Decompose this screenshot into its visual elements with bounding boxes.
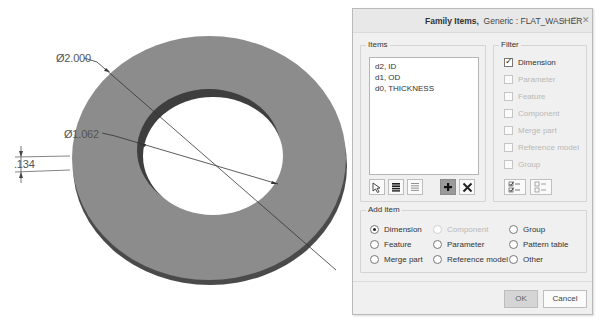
- uncheck-all-filters-button[interactable]: [530, 179, 552, 195]
- family-items-dialog: Family Items, Generic : FLAT_WASHER – □ …: [352, 8, 593, 315]
- filter-reference-model-checkbox: Reference model: [504, 142, 579, 153]
- check-all-filters-button[interactable]: [504, 179, 526, 195]
- items-listbox[interactable]: d2, ID d1, OD d0, THICKNESS: [369, 57, 479, 175]
- radio-icon: [370, 255, 379, 264]
- list-item[interactable]: d0, THICKNESS: [370, 83, 478, 94]
- add-component-radio: Component: [433, 224, 488, 235]
- radio-icon: [433, 255, 442, 264]
- filter-parameter-checkbox: Parameter: [504, 74, 555, 85]
- outer-diameter-dimension[interactable]: Ø2.000: [56, 52, 91, 64]
- radio-icon: [370, 240, 379, 249]
- deselect-all-button[interactable]: [407, 179, 423, 195]
- add-other-radio[interactable]: Other: [509, 254, 543, 265]
- model-viewport[interactable]: Ø2.000 Ø1.062 .134: [0, 0, 352, 330]
- plus-icon: [443, 182, 453, 192]
- washer-model: [0, 0, 352, 330]
- checkbox-icon: [504, 75, 513, 84]
- filter-merge-part-checkbox: Merge part: [504, 125, 557, 136]
- checkbox-icon: [504, 160, 513, 169]
- select-items-button[interactable]: [369, 179, 385, 195]
- radio-icon: [509, 255, 518, 264]
- radio-icon: [509, 240, 518, 249]
- list-empty-icon: [410, 182, 420, 192]
- radio-icon: [433, 225, 442, 234]
- add-parameter-radio[interactable]: Parameter: [433, 239, 484, 250]
- radio-selected-icon: [370, 225, 379, 234]
- checkbox-icon: [504, 143, 513, 152]
- add-feature-radio[interactable]: Feature: [370, 239, 412, 250]
- checkbox-icon: [504, 92, 513, 101]
- check-all-icon: [508, 181, 522, 193]
- items-group-label: Items: [366, 40, 390, 49]
- checkbox-checked-icon: [504, 58, 513, 67]
- add-item-group: Add item Dimension Component Group Featu…: [360, 210, 587, 273]
- uncheck-all-icon: [534, 181, 548, 193]
- footer-divider: [353, 281, 592, 282]
- filter-component-checkbox: Component: [504, 108, 559, 119]
- filter-group: Filter Dimension Parameter Feature Compo…: [493, 45, 587, 202]
- ok-button[interactable]: OK: [504, 290, 538, 308]
- filter-feature-checkbox: Feature: [504, 91, 546, 102]
- filter-group-label: Filter: [499, 40, 521, 49]
- pointer-icon: [372, 182, 382, 193]
- dialog-titlebar[interactable]: Family Items, Generic : FLAT_WASHER – □ …: [353, 9, 592, 33]
- delete-x-icon: [462, 182, 473, 193]
- items-group: Items d2, ID d1, OD d0, THICKNESS: [360, 45, 486, 202]
- filter-dimension-checkbox[interactable]: Dimension: [504, 57, 556, 68]
- add-reference-model-radio[interactable]: Reference model: [433, 254, 508, 265]
- list-item[interactable]: d2, ID: [370, 61, 478, 72]
- inner-diameter-dimension[interactable]: Ø1.062: [64, 128, 99, 140]
- add-item-group-label: Add item: [366, 205, 402, 214]
- filter-group-checkbox: Group: [504, 159, 540, 170]
- radio-icon: [509, 225, 518, 234]
- add-dimension-radio[interactable]: Dimension: [370, 224, 422, 235]
- checkbox-icon: [504, 126, 513, 135]
- thickness-dimension[interactable]: .134: [14, 158, 35, 170]
- radio-icon: [433, 240, 442, 249]
- add-item-button[interactable]: [440, 179, 456, 195]
- add-merge-part-radio[interactable]: Merge part: [370, 254, 423, 265]
- list-item[interactable]: d1, OD: [370, 72, 478, 83]
- select-all-button[interactable]: [388, 179, 404, 195]
- list-filled-icon: [391, 182, 401, 192]
- close-icon[interactable]: ✕: [580, 14, 592, 26]
- add-pattern-table-radio[interactable]: Pattern table: [509, 239, 568, 250]
- remove-item-button[interactable]: [459, 179, 475, 195]
- add-group-radio[interactable]: Group: [509, 224, 545, 235]
- checkbox-icon: [504, 109, 513, 118]
- cancel-button[interactable]: Cancel: [543, 290, 587, 308]
